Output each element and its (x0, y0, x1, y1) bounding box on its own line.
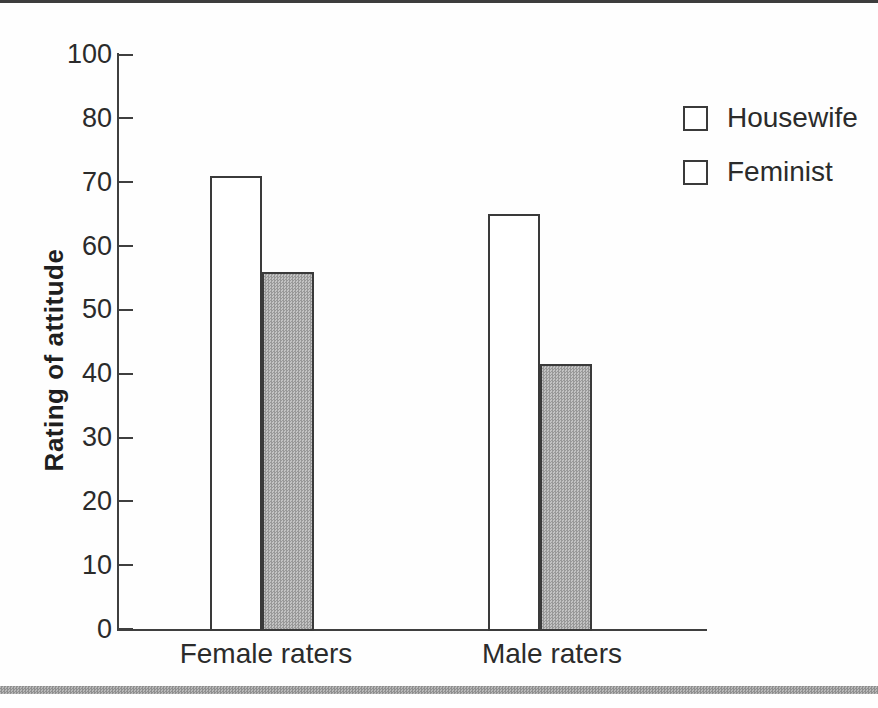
legend-item-feminist: Feminist (683, 158, 833, 186)
y-tick-label: 70 (20, 169, 112, 196)
y-tick-label: 20 (20, 488, 112, 515)
y-tick-mark (119, 245, 133, 247)
bar-housewife-male-raters (488, 214, 540, 631)
y-tick-mark (119, 437, 133, 439)
y-tick-label: 60 (20, 233, 112, 260)
x-category-label: Male raters (402, 638, 702, 670)
x-axis-line (117, 629, 707, 631)
y-tick-mark (119, 54, 133, 56)
y-axis-line (117, 53, 119, 631)
y-tick-label: 80 (20, 105, 112, 132)
y-tick-label: 30 (20, 424, 112, 451)
y-tick-label: 100 (20, 41, 112, 68)
y-tick-mark (119, 500, 133, 502)
y-tick-mark (119, 117, 133, 119)
bar-feminist-female-raters (262, 272, 314, 631)
legend-item-housewife: Housewife (683, 104, 858, 132)
y-tick-label: 40 (20, 360, 112, 387)
bottom-border-rule (0, 686, 878, 694)
legend-label-feminist: Feminist (727, 158, 833, 186)
y-tick-mark (119, 628, 133, 630)
housewife-swatch-icon (683, 106, 708, 131)
legend: Housewife Feminist (683, 104, 873, 214)
figure-page: Rating of attitude 10080706050403020100 … (0, 0, 878, 708)
bar-chart: Rating of attitude 10080706050403020100 … (0, 0, 878, 686)
y-tick-label: 50 (20, 296, 112, 323)
x-category-label: Female raters (116, 638, 416, 670)
y-tick-label: 0 (20, 616, 112, 643)
legend-label-housewife: Housewife (727, 104, 858, 132)
y-tick-mark (119, 564, 133, 566)
y-tick-mark (119, 309, 133, 311)
bar-housewife-female-raters (210, 176, 262, 631)
feminist-swatch-icon (683, 160, 708, 185)
y-tick-mark (119, 181, 133, 183)
bar-feminist-male-raters (540, 364, 592, 631)
y-tick-mark (119, 373, 133, 375)
y-tick-label: 10 (20, 552, 112, 579)
